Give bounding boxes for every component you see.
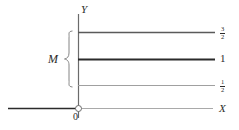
fraction-denominator: 2 [220,33,225,41]
brace-label-m: M [48,53,58,65]
fraction-one-half: 1 2 [220,79,225,94]
level-label-lower: 1 2 [220,79,225,94]
level-label-upper: 3 2 [220,26,225,41]
figure-canvas: Y X 0 M 3 2 1 1 2 [0,0,239,130]
fraction-three-halves: 3 2 [220,26,225,41]
x-axis-label: X [219,103,226,114]
level-label-middle: 1 [220,53,226,64]
brace-bracket [65,31,73,87]
fraction-numerator: 3 [220,26,225,33]
diagram-svg [0,0,239,130]
fraction-denominator: 2 [220,86,225,94]
y-axis-label: Y [81,4,87,15]
fraction-numerator: 1 [220,79,225,86]
origin-label: 0 [73,112,78,122]
